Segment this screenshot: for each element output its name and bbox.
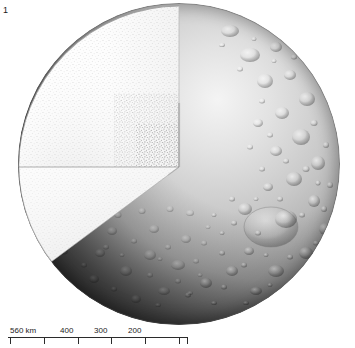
scale-bar-labels: 560 km 400 300 200 [8, 326, 188, 337]
cutaway-sphere-illustration [18, 3, 340, 325]
scale-tick [179, 337, 180, 344]
scale-label-400: 400 [60, 326, 73, 335]
scale-label-300: 300 [94, 326, 107, 335]
scale-tick [10, 337, 11, 344]
scale-label-560: 560 km [10, 326, 36, 335]
scale-tick [145, 337, 146, 344]
sphere-clip [18, 3, 340, 325]
sphere-outline [18, 3, 340, 325]
scale-bar-rule [8, 337, 188, 346]
scale-tick [78, 337, 79, 344]
scale-bar-axis [8, 337, 188, 338]
scale-bar: 560 km 400 300 200 [8, 326, 188, 346]
scale-tick [44, 337, 45, 344]
scale-tick [187, 337, 188, 344]
figure-number: 1 [3, 6, 8, 15]
figure-container: 1 [0, 0, 355, 348]
scale-tick [111, 337, 112, 344]
scale-label-200: 200 [128, 326, 141, 335]
